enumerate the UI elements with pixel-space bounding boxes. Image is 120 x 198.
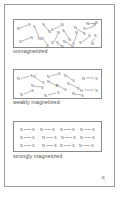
svg-text:S: S bbox=[42, 22, 45, 27]
svg-text:N: N bbox=[64, 73, 67, 78]
svg-text:S: S bbox=[41, 85, 44, 90]
svg-text:S: S bbox=[54, 135, 57, 140]
svg-text:N: N bbox=[68, 37, 71, 42]
svg-text:S: S bbox=[32, 127, 35, 132]
svg-text:N: N bbox=[20, 143, 23, 148]
strongly-magnetized-label: strongly magnetized bbox=[13, 153, 62, 159]
svg-text:N: N bbox=[42, 135, 45, 140]
svg-text:S: S bbox=[92, 135, 95, 140]
svg-text:S: S bbox=[52, 127, 55, 132]
svg-text:S: S bbox=[51, 40, 54, 45]
svg-text:S: S bbox=[28, 22, 31, 27]
svg-text:N: N bbox=[60, 143, 63, 148]
svg-text:S: S bbox=[57, 90, 60, 95]
svg-text:N: N bbox=[75, 30, 78, 35]
unmagnetized-panel: NS SN SN NS SN SN SN SN NS SN NS SS SN N… bbox=[13, 19, 102, 48]
svg-text:S: S bbox=[62, 28, 65, 33]
svg-text:S: S bbox=[72, 41, 75, 46]
svg-text:S: S bbox=[95, 76, 98, 81]
svg-text:S: S bbox=[83, 31, 86, 36]
svg-text:S: S bbox=[95, 88, 98, 93]
svg-text:N: N bbox=[61, 135, 64, 140]
svg-text:S: S bbox=[31, 88, 34, 93]
strongly-magnetized-panel: NS NS NS NS NS NS NS NS NS NS NS NS bbox=[13, 121, 102, 152]
svg-text:N: N bbox=[80, 135, 83, 140]
svg-text:N: N bbox=[91, 41, 94, 46]
svg-text:N: N bbox=[17, 76, 20, 81]
svg-text:S: S bbox=[73, 135, 76, 140]
svg-text:N: N bbox=[41, 36, 44, 41]
svg-text:S: S bbox=[19, 39, 22, 44]
svg-text:N: N bbox=[74, 25, 77, 30]
svg-text:S: S bbox=[33, 24, 36, 29]
svg-text:S: S bbox=[88, 33, 91, 38]
svg-text:S: S bbox=[92, 127, 95, 132]
svg-text:N: N bbox=[40, 127, 43, 132]
svg-text:S: S bbox=[67, 81, 70, 86]
aligned-domains-diagram: NS NS NS NS NS NS NS NS NS NS NS NS bbox=[14, 122, 103, 153]
svg-text:S: S bbox=[91, 143, 94, 148]
svg-text:N: N bbox=[82, 76, 85, 81]
svg-text:S: S bbox=[72, 127, 75, 132]
svg-text:S: S bbox=[32, 135, 35, 140]
svg-text:N: N bbox=[61, 44, 64, 49]
svg-text:N: N bbox=[20, 92, 23, 97]
svg-text:S: S bbox=[51, 27, 54, 32]
svg-text:S: S bbox=[58, 71, 61, 76]
svg-text:S: S bbox=[94, 33, 97, 38]
svg-text:N: N bbox=[47, 79, 50, 84]
partially-aligned-domains-diagram: NS NS NS NS NS NS NS NS NS SS NS NS NS bbox=[14, 70, 103, 100]
svg-text:S: S bbox=[81, 93, 84, 98]
svg-text:N: N bbox=[44, 93, 47, 98]
svg-text:N: N bbox=[20, 127, 23, 132]
svg-text:S: S bbox=[95, 20, 98, 25]
svg-text:N: N bbox=[42, 143, 45, 148]
svg-text:S: S bbox=[72, 143, 75, 148]
svg-text:N: N bbox=[61, 22, 64, 27]
random-domains-diagram: NS SN SN NS SN SN SN SN NS SN NS SS SN N… bbox=[14, 20, 103, 49]
svg-text:S: S bbox=[83, 26, 86, 31]
svg-text:N: N bbox=[79, 143, 82, 148]
svg-text:N: N bbox=[60, 127, 63, 132]
svg-text:N: N bbox=[17, 26, 20, 31]
svg-text:N: N bbox=[72, 91, 75, 96]
weakly-magnetized-label: weakly magnetized bbox=[13, 99, 60, 105]
svg-text:S: S bbox=[72, 78, 75, 83]
svg-text:N: N bbox=[57, 30, 60, 35]
svg-text:S: S bbox=[32, 143, 35, 148]
svg-text:N: N bbox=[80, 127, 83, 132]
svg-text:S: S bbox=[54, 143, 57, 148]
unmagnetized-label: unmagnetized bbox=[13, 48, 47, 54]
figure-letter: c bbox=[102, 174, 105, 180]
svg-text:S: S bbox=[56, 40, 59, 45]
svg-text:N: N bbox=[86, 21, 89, 26]
svg-text:N: N bbox=[20, 135, 23, 140]
svg-text:S: S bbox=[79, 40, 82, 45]
svg-text:N: N bbox=[33, 74, 36, 79]
svg-text:N: N bbox=[56, 83, 59, 88]
weakly-magnetized-panel: NS NS NS NS NS NS NS NS NS SS NS NS NS bbox=[13, 69, 102, 99]
svg-text:N: N bbox=[30, 35, 33, 40]
svg-text:S: S bbox=[64, 87, 67, 92]
